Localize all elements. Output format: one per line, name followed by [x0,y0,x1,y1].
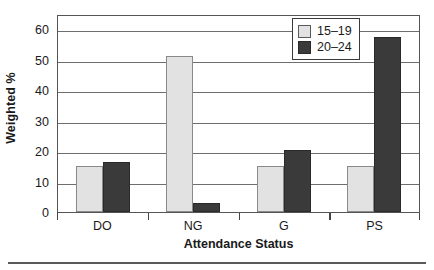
bar-do-20-24 [103,162,130,212]
y-tick-label: 0 [42,206,49,220]
plot-area [57,15,420,213]
bar-ps-20-24 [374,37,401,212]
legend-label-15-19: 15–19 [317,24,352,38]
bar-ps-15-19 [347,166,374,212]
legend-swatch-15-19 [298,25,311,38]
bar-ng-20-24 [193,203,220,212]
x-label-ng: NG [148,219,239,237]
y-axis-title: Weighted % [0,0,22,215]
legend-item-15-19: 15–19 [298,23,352,39]
bar-g-15-19 [257,166,284,212]
x-label-ps: PS [329,219,420,237]
x-label-do: DO [57,219,148,237]
bar-group-do [58,16,148,212]
x-axis-category-labels: DONGGPS [57,219,420,237]
y-axis-title-text: Weighted % [4,72,18,144]
y-tick-label: 20 [35,145,49,159]
bar-ng-15-19 [166,56,193,212]
y-axis-tick-labels: 0102030405060 [22,15,53,213]
bar-g-20-24 [284,150,311,212]
y-tick-label: 30 [35,115,49,129]
y-tick-label: 50 [35,54,49,68]
legend: 15–1920–24 [292,18,360,60]
bar-chart-figure: Weighted % 0102030405060 DONGGPS Attenda… [0,0,434,270]
bar-group-ng [148,16,238,212]
legend-item-20-24: 20–24 [298,39,352,55]
bar-groups [58,16,419,212]
y-tick-label: 10 [35,176,49,190]
y-tick-label: 60 [35,23,49,37]
x-axis-title: Attendance Status [57,237,420,251]
legend-label-20-24: 20–24 [317,40,352,54]
legend-swatch-20-24 [298,41,311,54]
bottom-divider [8,262,426,264]
y-tick-label: 40 [35,84,49,98]
x-label-g: G [239,219,330,237]
bar-do-15-19 [76,166,103,212]
